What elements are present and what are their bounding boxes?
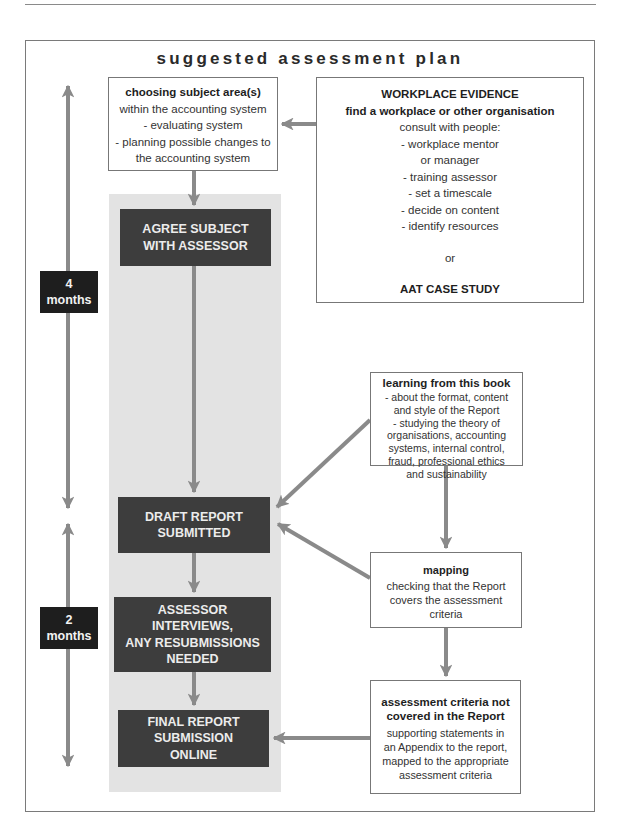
step-line: SUBMITTED — [158, 525, 231, 542]
learning-line: fraud, professional ethics — [371, 455, 522, 468]
learning-line: and sustainability — [371, 468, 522, 481]
choosing-line: - evaluating system — [109, 117, 277, 134]
criteria-heading: assessment criteria not — [371, 695, 520, 709]
choosing-line: the accounting system — [109, 150, 277, 167]
step-line: INTERVIEWS, — [152, 618, 233, 635]
criteria-line: assessment criteria — [371, 768, 520, 782]
workplace-line: - training assessor — [317, 169, 583, 186]
criteria-line: supporting statements in — [371, 726, 520, 740]
step-line: NEEDED — [166, 651, 218, 668]
mapping-line: covers the assessment — [371, 593, 521, 607]
criteria-heading: covered in the Report — [371, 709, 520, 723]
step-line: SUBMISSION — [154, 730, 233, 747]
step-final-report: FINAL REPORT SUBMISSION ONLINE — [118, 710, 269, 767]
criteria-line: mapped to the appropriate — [371, 754, 520, 768]
workplace-alternative: AAT CASE STUDY — [317, 281, 583, 298]
mapping-line: checking that the Report — [371, 579, 521, 593]
workplace-evidence-box: WORKPLACE EVIDENCE find a workplace or o… — [316, 77, 584, 303]
step-line: AGREE SUBJECT — [142, 221, 248, 238]
step-line: ANY RESUBMISSIONS — [125, 635, 260, 652]
workplace-line: - set a timescale — [317, 185, 583, 202]
step-line: ASSESSOR — [158, 602, 227, 619]
workplace-or: or — [317, 250, 583, 267]
criteria-line: an Appendix to the report, — [371, 740, 520, 754]
choosing-heading: choosing subject area(s) — [109, 84, 277, 101]
learning-box: learning from this book - about the form… — [370, 372, 523, 466]
arrow-mapping-to-draft — [278, 524, 370, 578]
choosing-line: within the accounting system — [109, 101, 277, 118]
learning-line: - about the format, content — [371, 391, 522, 404]
learning-line: organisations, accounting — [371, 429, 522, 442]
step-line: ONLINE — [170, 747, 217, 764]
workplace-subheading: find a workplace or other organisation — [317, 103, 583, 120]
step-line: FINAL REPORT — [147, 714, 239, 731]
time-label-4-months: 4 months — [40, 271, 98, 313]
time-value: 2 — [40, 612, 98, 628]
time-unit: months — [40, 628, 98, 644]
step-assessor-interviews: ASSESSOR INTERVIEWS, ANY RESUBMISSIONS N… — [114, 597, 271, 672]
learning-line: systems, internal control, — [371, 442, 522, 455]
step-agree-subject: AGREE SUBJECT WITH ASSESSOR — [120, 209, 271, 266]
time-unit: months — [40, 292, 98, 308]
learning-line: and style of the Report — [371, 404, 522, 417]
learning-line: - studying the theory of — [371, 417, 522, 430]
step-draft-report: DRAFT REPORT SUBMITTED — [118, 497, 270, 553]
learning-heading: learning from this book — [371, 376, 522, 391]
mapping-box: mapping checking that the Report covers … — [370, 552, 522, 628]
choosing-subject-box: choosing subject area(s) within the acco… — [108, 77, 278, 171]
mapping-heading: mapping — [371, 563, 521, 577]
time-label-2-months: 2 months — [40, 607, 98, 649]
workplace-line: - decide on content — [317, 202, 583, 219]
workplace-line: consult with people: — [317, 119, 583, 136]
workplace-line: - workplace mentor — [317, 136, 583, 153]
workplace-heading: WORKPLACE EVIDENCE — [317, 86, 583, 103]
mapping-line: criteria — [371, 607, 521, 621]
arrow-learning-to-draft — [277, 420, 370, 507]
step-line: WITH ASSESSOR — [143, 238, 247, 255]
criteria-box: assessment criteria not covered in the R… — [370, 680, 521, 794]
step-line: DRAFT REPORT — [145, 509, 243, 526]
workplace-line: - identify resources — [317, 218, 583, 235]
time-value: 4 — [40, 276, 98, 292]
choosing-line: - planning possible changes to — [109, 134, 277, 151]
workplace-line: or manager — [317, 152, 583, 169]
